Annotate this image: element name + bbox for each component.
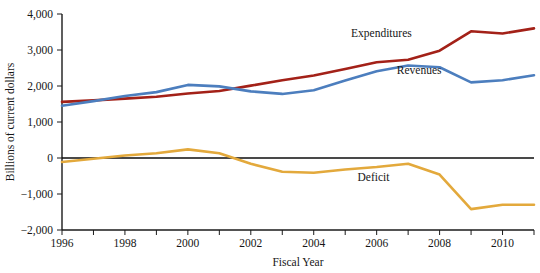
series-lines [62,28,534,209]
y-axis-title: Billions of current dollars [4,62,16,181]
x-axis-title: Fiscal Year [272,256,323,268]
series-annotations: ExpendituresRevenuesDeficit [351,27,442,183]
x-tick-label: 2002 [239,237,262,249]
line-chart-svg: 4,0003,0002,0001,0000−1,000−2,000 199619… [0,0,540,273]
x-axis-ticks [62,230,534,235]
x-tick-label: 2010 [491,237,514,249]
chart-figure: 4,0003,0002,0001,0000−1,000−2,000 199619… [0,0,540,273]
x-tick-label: 2000 [176,237,199,249]
series-line-revenues [62,65,534,105]
y-tick-label: −1,000 [21,188,54,201]
y-tick-label: 2,000 [27,80,53,93]
y-tick-label: 0 [47,152,53,164]
x-tick-label: 1998 [113,237,136,249]
y-tick-label: −2,000 [21,224,54,237]
y-axis-tick-labels: 4,0003,0002,0001,0000−1,000−2,000 [21,8,54,237]
x-axis-group: 19961998200020022004200620082010 [51,230,535,249]
x-tick-label: 2004 [302,237,325,249]
y-axis-ticks [57,14,62,230]
x-tick-label: 2008 [428,237,451,249]
x-axis-tick-labels: 19961998200020022004200620082010 [51,237,515,249]
y-tick-label: 3,000 [27,44,53,57]
x-tick-label: 1996 [51,237,74,249]
y-axis-group: 4,0003,0002,0001,0000−1,000−2,000 [21,8,62,237]
series-label-expenditures: Expenditures [351,27,412,40]
series-label-revenues: Revenues [397,64,442,76]
x-tick-label: 2006 [365,237,388,249]
series-label-deficit: Deficit [358,171,391,183]
y-tick-label: 4,000 [27,8,53,21]
y-tick-label: 1,000 [27,116,53,129]
